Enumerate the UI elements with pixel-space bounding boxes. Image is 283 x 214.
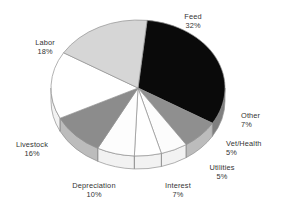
- pie-chart-figure: Feed 32% Other 7% Vet/Health 5% Utilitie…: [0, 0, 283, 214]
- pie-chart-svg: [0, 0, 283, 214]
- pie-slices: [51, 20, 225, 156]
